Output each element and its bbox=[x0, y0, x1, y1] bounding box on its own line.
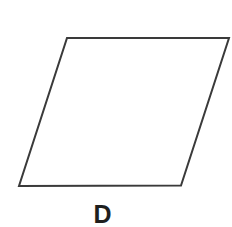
figure-label: D bbox=[0, 202, 205, 227]
parallelogram-shape bbox=[0, 0, 232, 200]
